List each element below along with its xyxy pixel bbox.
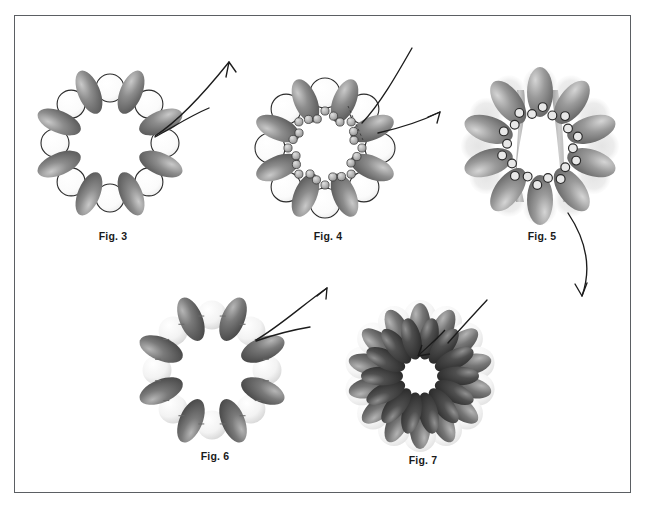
fig4-bead bbox=[321, 181, 329, 189]
fig5-link-ring bbox=[515, 109, 524, 118]
fig5-link-ring bbox=[548, 111, 557, 120]
fig6-graphic bbox=[132, 292, 297, 452]
fig5-link-ring bbox=[538, 103, 547, 112]
figure-sheet: Fig. 3 bbox=[0, 0, 651, 516]
figure-fig5: Fig. 5 bbox=[462, 68, 622, 233]
fig4-bead bbox=[312, 176, 320, 184]
fig4-bead bbox=[304, 115, 312, 123]
fig5-link-ring bbox=[564, 124, 573, 133]
fig4-bead bbox=[353, 152, 361, 160]
fig4-bead bbox=[313, 115, 321, 123]
figure-fig6: Fig. 6 bbox=[132, 292, 297, 452]
fig4-bead bbox=[350, 136, 358, 144]
figure-fig4: Fig. 4 bbox=[245, 68, 410, 233]
fig5-link-ring bbox=[573, 132, 582, 141]
fig4-bead bbox=[295, 129, 303, 137]
fig4-bead bbox=[347, 159, 355, 167]
figure-fig7: Fig. 7 bbox=[340, 296, 505, 456]
fig4-bead bbox=[321, 107, 329, 115]
fig4-graphic bbox=[245, 68, 410, 233]
fig5-link-ring bbox=[544, 174, 553, 183]
figure-fig3: Fig. 3 bbox=[30, 65, 195, 230]
fig4-bead bbox=[347, 170, 355, 178]
fig5-link-ring bbox=[556, 175, 565, 184]
fig7-graphic bbox=[340, 296, 505, 456]
fig4-bead bbox=[292, 160, 300, 168]
fig5-link-ring bbox=[511, 171, 520, 180]
fig5-caption: Fig. 5 bbox=[507, 230, 577, 242]
fig3-graphic bbox=[30, 65, 195, 230]
fig5-link-ring bbox=[533, 181, 542, 190]
fig5-link-ring bbox=[572, 156, 581, 165]
fig5-link-ring bbox=[561, 163, 570, 172]
fig5-link-ring bbox=[561, 112, 570, 121]
fig4-bead bbox=[329, 112, 337, 120]
fig5-link-ring bbox=[528, 110, 537, 119]
fig4-bead bbox=[295, 170, 303, 178]
fig4-bead bbox=[349, 127, 357, 135]
fig4-bead bbox=[306, 170, 314, 178]
fig4-bead bbox=[295, 118, 303, 126]
fig5-link-ring bbox=[498, 151, 507, 160]
fig6-caption: Fig. 6 bbox=[180, 450, 250, 462]
fig4-bead bbox=[336, 118, 344, 126]
fig4-bead bbox=[358, 144, 366, 152]
fig5-graphic bbox=[462, 68, 622, 233]
fig4-caption: Fig. 4 bbox=[293, 230, 363, 242]
fig4-bead bbox=[289, 135, 297, 143]
fig5-link-ring bbox=[523, 172, 532, 181]
fig4-bead bbox=[284, 144, 292, 152]
fig5-link-ring bbox=[503, 139, 512, 148]
fig5-link-ring bbox=[569, 144, 578, 153]
fig5-link-ring bbox=[508, 159, 517, 168]
fig5-link-ring bbox=[499, 127, 508, 136]
fig4-bead bbox=[347, 118, 355, 126]
fig7-caption: Fig. 7 bbox=[388, 454, 458, 466]
fig5-link-ring bbox=[510, 120, 519, 129]
fig3-caption: Fig. 3 bbox=[78, 230, 148, 242]
fig4-bead bbox=[329, 173, 337, 181]
fig4-bead bbox=[337, 172, 345, 180]
fig4-bead bbox=[292, 152, 300, 160]
